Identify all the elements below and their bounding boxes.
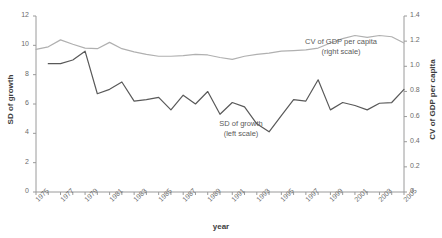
series-annotation-cv-line1: CV of GDP per capita [291, 37, 391, 47]
y-tick-label-left: 4 [9, 128, 29, 135]
series-annotation-cv: CV of GDP per capita (right scale) [291, 37, 391, 57]
y-tick-label-right: 1.2 [410, 36, 434, 43]
y-tick-label-right: 0.6 [410, 112, 434, 119]
y-tick-label-left: 0 [9, 187, 29, 194]
y-tick-label-right: 0.4 [410, 137, 434, 144]
series-annotation-sd-line1: SD of growth [196, 119, 286, 129]
series-annotation-sd: SD of growth (left scale) [196, 119, 286, 139]
y-tick-label-right: 0.8 [410, 86, 434, 93]
y-tick-label-left: 8 [9, 70, 29, 77]
y-tick-label-left: 6 [9, 99, 29, 106]
series-annotation-sd-line2: (left scale) [196, 129, 286, 139]
chart-container: SD of growth CV of GDP per capita year 0… [0, 0, 442, 238]
y-tick-label-right: 1.0 [410, 61, 434, 68]
y-tick-label-left: 12 [9, 11, 29, 18]
y-tick-label-left: 10 [9, 40, 29, 47]
y-tick-label-right: 0.2 [410, 162, 434, 169]
y-tick-label-right: 1.4 [410, 11, 434, 18]
series-annotation-cv-line2: (right scale) [291, 47, 391, 57]
y-tick-label-left: 2 [9, 158, 29, 165]
